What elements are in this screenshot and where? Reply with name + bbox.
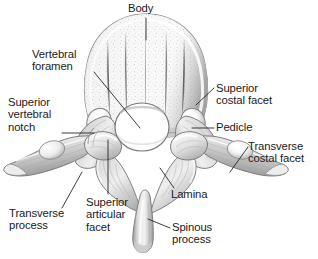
label-superior-articular-facet: Superior articular facet bbox=[86, 196, 128, 233]
label-transverse-process: Transverse process bbox=[9, 207, 64, 232]
label-pedicle: Pedicle bbox=[216, 121, 252, 133]
superior-articular-facet-left bbox=[85, 132, 122, 160]
label-vertebral-foramen: Vertebral foramen bbox=[32, 48, 76, 73]
vertebral-foramen bbox=[115, 103, 169, 151]
leader-transverse-process bbox=[62, 172, 82, 208]
label-transverse-costal-facet: Transverse costal facet bbox=[248, 140, 304, 165]
figure-canvas: BodyVertebral foramenSuperior vertebral … bbox=[0, 0, 318, 259]
transverse-process-left bbox=[4, 136, 96, 176]
lamina-right bbox=[150, 152, 196, 214]
superior-articular-facet-right bbox=[171, 132, 208, 160]
label-superior-vertebral-notch: Superior vertebral notch bbox=[8, 96, 51, 133]
label-body: Body bbox=[128, 2, 153, 14]
label-lamina: Lamina bbox=[171, 188, 207, 200]
label-spinous-process: Spinous process bbox=[172, 221, 212, 246]
label-superior-costal-facet: Superior costal facet bbox=[216, 82, 272, 107]
